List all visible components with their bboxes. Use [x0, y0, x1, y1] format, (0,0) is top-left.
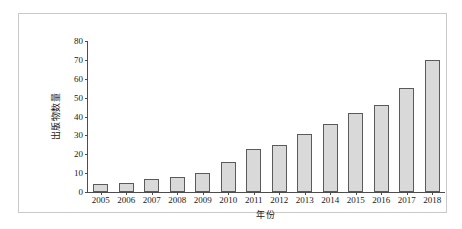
- y-tick-label: 10: [53, 169, 88, 178]
- y-tick-label: 30: [53, 131, 88, 140]
- bar-slot: 2010: [216, 41, 242, 192]
- bar: [297, 134, 312, 193]
- x-tick-label: 2008: [168, 196, 186, 205]
- bar-slot: 2008: [165, 41, 191, 192]
- bar: [93, 184, 108, 192]
- x-tick-label: 2005: [92, 196, 110, 205]
- y-tick-label: 50: [53, 93, 88, 102]
- x-tick-label: 2013: [296, 196, 314, 205]
- x-axis-title: 年份: [87, 208, 444, 221]
- x-tick-label: 2010: [219, 196, 237, 205]
- bar-slot: 2016: [369, 41, 395, 192]
- y-tick-label: 60: [53, 74, 88, 83]
- bar-slot: 2013: [292, 41, 318, 192]
- y-tick-label: 70: [53, 55, 88, 64]
- bar: [348, 113, 363, 192]
- y-tick-label: 40: [53, 112, 88, 121]
- plot-area: 01020304050607080 2005200620072008200920…: [87, 41, 445, 193]
- x-tick-label: 2016: [372, 196, 390, 205]
- bar: [425, 60, 440, 192]
- bar-slot: 2012: [267, 41, 293, 192]
- x-tick-label: 2014: [321, 196, 339, 205]
- y-tick-mark: [85, 192, 88, 193]
- bar-slot: 2005: [88, 41, 114, 192]
- x-tick-label: 2018: [423, 196, 441, 205]
- bar-slot: 2007: [139, 41, 165, 192]
- bar: [374, 105, 389, 192]
- figure-frame: 出版物数量 01020304050607080 2005200620072008…: [18, 13, 447, 213]
- bar-slot: 2009: [190, 41, 216, 192]
- x-tick-label: 2007: [143, 196, 161, 205]
- bar-slot: 2018: [420, 41, 446, 192]
- x-tick-label: 2006: [117, 196, 135, 205]
- bar: [221, 162, 236, 192]
- bar: [399, 88, 414, 192]
- bar: [323, 124, 338, 192]
- x-tick-label: 2011: [245, 196, 263, 205]
- bar: [272, 145, 287, 192]
- y-tick-label: 20: [53, 150, 88, 159]
- bar-slot: 2011: [241, 41, 267, 192]
- bar: [119, 183, 134, 192]
- bar: [170, 177, 185, 192]
- bar: [144, 179, 159, 192]
- bar-slot: 2015: [343, 41, 369, 192]
- bar: [195, 173, 210, 192]
- bar: [246, 149, 261, 192]
- x-tick-label: 2012: [270, 196, 288, 205]
- bar-slot: 2017: [394, 41, 420, 192]
- x-tick-label: 2009: [194, 196, 212, 205]
- bar-series: 2005200620072008200920102011201220132014…: [88, 41, 445, 192]
- y-tick-label: 80: [53, 37, 88, 46]
- bar-slot: 2006: [114, 41, 140, 192]
- y-tick-label: 0: [53, 188, 88, 197]
- x-tick-label: 2017: [398, 196, 416, 205]
- x-tick-label: 2015: [347, 196, 365, 205]
- bar-slot: 2014: [318, 41, 344, 192]
